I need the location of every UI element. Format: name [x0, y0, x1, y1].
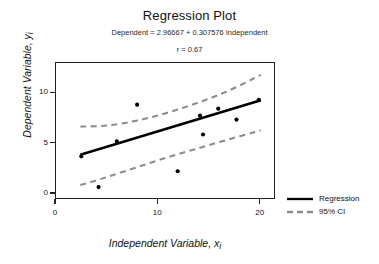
y-tick-label-10: 10	[26, 87, 48, 96]
data-point-2	[115, 139, 119, 143]
x-tick-mark-0	[54, 199, 55, 204]
x-axis-label: Independent Variable, xi	[35, 237, 295, 251]
data-point-8	[234, 118, 238, 122]
legend-swatch-solid-line	[287, 194, 313, 204]
plot-area	[55, 62, 275, 199]
regression-equation: Dependent = 2.96667 + 0.307576 Independe…	[0, 28, 379, 37]
y-tick-label-5: 5	[26, 138, 48, 147]
correlation-annotation: r = 0.67	[0, 45, 379, 54]
data-point-7	[216, 107, 220, 111]
legend-label-regression: Regression	[319, 194, 359, 203]
data-point-9	[257, 98, 261, 102]
plot-canvas	[56, 63, 274, 198]
chart-title: Regression Plot	[0, 8, 379, 23]
data-point-1	[97, 185, 101, 189]
y-tick-mark-10	[50, 92, 55, 93]
y-tick-mark-5	[50, 142, 55, 143]
y-tick-mark-0	[50, 192, 55, 193]
y-tick-label-0: 0	[26, 188, 48, 197]
x-tick-mark-10	[157, 199, 158, 204]
data-point-6	[201, 132, 205, 136]
regression-plot-figure: Regression Plot Dependent = 2.96667 + 0.…	[0, 0, 379, 264]
data-point-4	[176, 169, 180, 173]
ci-upper-band	[80, 75, 260, 127]
data-point-5	[198, 114, 202, 118]
legend-item-ci: 95% CI	[287, 205, 359, 218]
x-tick-label-10: 10	[145, 208, 169, 217]
legend-label-ci: 95% CI	[319, 207, 345, 216]
x-tick-label-20: 20	[248, 208, 272, 217]
legend-item-regression: Regression	[287, 192, 359, 205]
x-tick-mark-20	[259, 199, 260, 204]
x-axis-label-subscript: i	[219, 241, 221, 251]
ci-lower-band	[80, 131, 260, 186]
legend: Regression 95% CI	[287, 192, 359, 218]
y-axis-label-text: Dependent Variable, y	[21, 34, 33, 138]
x-axis-label-text: Independent Variable, x	[109, 237, 220, 249]
x-tick-label-0: 0	[43, 208, 67, 217]
regression-line	[80, 100, 260, 155]
y-axis-label-subscript: i	[25, 32, 35, 34]
data-point-0	[79, 154, 83, 158]
legend-swatch-dashed-line	[287, 207, 313, 217]
data-point-3	[135, 103, 139, 107]
